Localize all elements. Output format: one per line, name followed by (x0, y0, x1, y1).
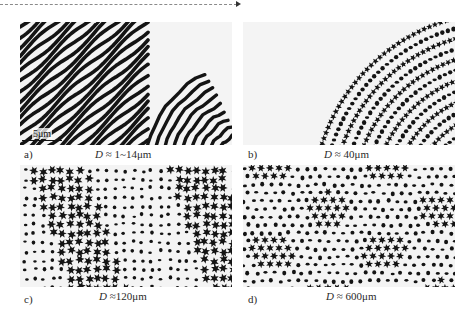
micrograph-panel-b (243, 22, 455, 145)
micrograph-panel-a (20, 22, 232, 145)
panel-caption-a: D ≈ 1~14μm (95, 148, 151, 160)
panel-label-a: a) (24, 148, 33, 160)
caption-symbol: D (324, 148, 332, 160)
caption-symbol: D (99, 290, 107, 302)
caption-value: ≈ 1~14μm (103, 148, 151, 160)
panel-label-b: b) (248, 148, 257, 160)
arrow-right-icon (236, 1, 241, 7)
panel-caption-c: D ≈120μm (99, 290, 147, 302)
scale-bar-label: 5μm (32, 128, 52, 139)
caption-symbol: D (326, 290, 334, 302)
caption-symbol: D (95, 148, 103, 160)
caption-value: ≈ 40μm (332, 148, 369, 160)
caption-value: ≈120μm (107, 290, 147, 302)
caption-value: ≈ 600μm (334, 290, 377, 302)
panel-caption-d: D ≈ 600μm (326, 290, 376, 302)
micrograph-panel-c (20, 165, 232, 287)
panel-label-d: d) (248, 293, 257, 305)
top-dashed-rule (0, 4, 237, 5)
panel-label-c: c) (24, 293, 33, 305)
panel-caption-b: D ≈ 40μm (324, 148, 369, 160)
micrograph-panel-d (243, 165, 455, 287)
scale-bar (22, 140, 62, 141)
